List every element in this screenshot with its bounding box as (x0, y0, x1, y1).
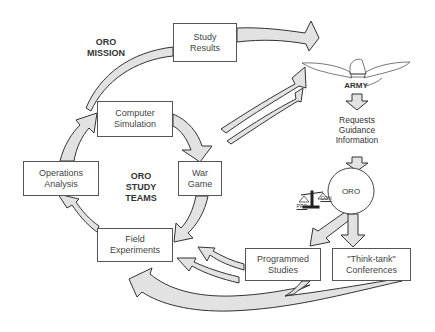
army-down-arrow (346, 94, 368, 110)
field-to-ops-arrow (58, 194, 99, 232)
oro-study-teams-label: ORO STUDY TEAMS (124, 171, 158, 204)
compsim-to-wargame-arrow (173, 114, 212, 162)
teams-to-army-arrow-2 (227, 88, 303, 144)
oro-mission-title: ORO MISSION (76, 37, 136, 59)
wargame-to-field-arrow (174, 196, 208, 242)
con-label: CON (318, 195, 334, 201)
programmed-studies-box: Programmed Studies (245, 248, 321, 281)
oro-to-programmed-arrow (310, 212, 352, 246)
study-results-box: Study Results (173, 23, 237, 62)
war-game-box: War Game (178, 161, 222, 196)
operations-analysis-box: Operations Analysis (23, 161, 99, 196)
think-tank-conferences-box: "Think-tank" Conferences (332, 248, 411, 281)
pro-label: PRO (294, 203, 310, 209)
ops-to-compsim-arrow (60, 113, 97, 161)
oro-node-label: ORO (336, 186, 366, 197)
field-experiments-box: Field Experiments (97, 228, 173, 262)
computer-simulation-box: Computer Simulation (97, 101, 173, 137)
results-to-army-arrow (237, 21, 319, 51)
requests-guidance-label: Requests Guidance Information (322, 115, 392, 145)
army-label: ARMY (336, 80, 376, 91)
